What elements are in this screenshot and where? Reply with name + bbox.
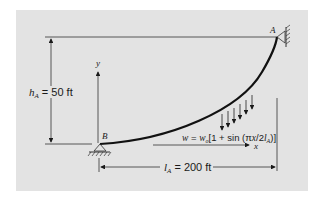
- support-B-icon: [88, 144, 111, 156]
- support-A-icon: [277, 25, 290, 47]
- y-axis-label: y: [95, 58, 100, 68]
- point-A-label: A: [269, 25, 276, 35]
- cable-curve: [100, 37, 277, 144]
- load-equation: w = wo[1 + sin (πx/2lA)]: [182, 132, 276, 144]
- height-label: hA = 50 ft: [29, 86, 73, 100]
- point-B-label: B: [102, 131, 108, 141]
- length-label: lA = 200 ft: [164, 161, 211, 175]
- cable-diagram: hA = 50 ft y x w = wo[1 + sin (πx/2lA)] …: [0, 0, 323, 197]
